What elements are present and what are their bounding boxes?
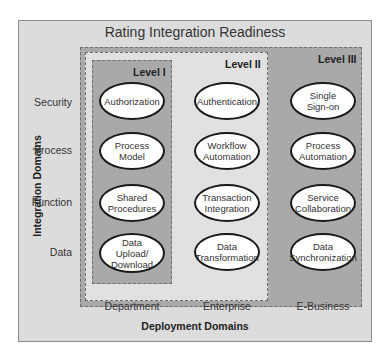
ellipse-authorization: Authorization: [99, 82, 165, 120]
ellipse-transaction-integration: Transaction Integration: [194, 184, 260, 222]
level-3-label: Level III: [318, 53, 357, 65]
ellipse-workflow-automation: Workflow Automation: [194, 132, 260, 170]
diagram-title: Rating Integration Readiness: [18, 24, 372, 40]
ellipse-process-automation: Process Automation: [290, 132, 356, 170]
deployment-domains-axis-label: Deployment Domains: [18, 320, 372, 332]
column-label-e-business: E-Business: [278, 300, 368, 312]
ellipse-shared-procedures: Shared Procedures: [99, 184, 165, 222]
row-label-process: Process: [12, 144, 72, 156]
ellipse-process-model: Process Model: [99, 132, 165, 170]
column-label-department: Department: [87, 300, 177, 312]
level-1-label: Level I: [133, 66, 166, 78]
level-2-label: Level II: [225, 58, 261, 70]
row-label-function: Function: [12, 196, 72, 208]
ellipse-service-collaboration: Service Collaboration: [290, 184, 356, 222]
column-label-enterprise: Enterprise: [182, 300, 272, 312]
row-label-security: Security: [12, 96, 72, 108]
ellipse-data-upload-download: Data Upload/ Download: [99, 233, 165, 273]
ellipse-authentication: Authentication: [194, 82, 260, 120]
ellipse-data-synchronization: Data Synchronization: [290, 233, 356, 271]
row-label-data: Data: [12, 246, 72, 258]
integration-domains-axis-label: Integration Domains: [31, 111, 43, 261]
ellipse-data-transformation: Data Transformation: [194, 233, 260, 271]
ellipse-single-sign-on: Single Sign-on: [290, 82, 356, 120]
